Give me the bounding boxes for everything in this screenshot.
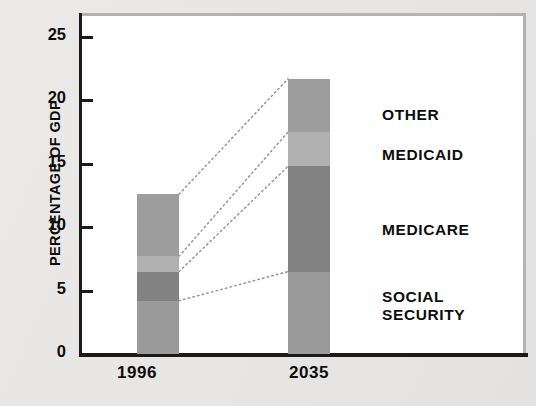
- y-tick-mark: [82, 353, 93, 356]
- bar-segment-other-2035: [288, 79, 330, 132]
- y-tick-mark: [82, 36, 93, 39]
- bar-segment-other-1996: [137, 194, 179, 256]
- bar-segment-social-security-1996: [137, 301, 179, 354]
- y-tick-mark: [82, 226, 93, 229]
- x-label-1996: 1996: [77, 363, 197, 383]
- series-label-medicaid: MEDICAID: [382, 146, 463, 164]
- bar-segment-medicare-2035: [288, 166, 330, 271]
- bar-2035: [288, 0, 330, 354]
- chart-page: PERCENTAGE OF GDP 2520151050 1996 2035 O…: [0, 0, 536, 406]
- bar-segment-social-security-2035: [288, 272, 330, 354]
- bar-segment-medicaid-1996: [137, 256, 179, 271]
- y-tick-mark: [82, 99, 93, 102]
- y-tick-label: 15: [48, 153, 66, 170]
- y-tick-label: 0: [57, 343, 66, 360]
- bar-segment-medicaid-2035: [288, 132, 330, 166]
- y-tick-mark: [82, 290, 93, 293]
- y-axis-line: [79, 13, 82, 356]
- y-tick-label: 25: [48, 26, 66, 43]
- bar-segment-medicare-1996: [137, 272, 179, 301]
- y-tick-label: 5: [57, 280, 66, 297]
- bar-1996: [137, 0, 179, 354]
- series-label-other: OTHER: [382, 106, 439, 124]
- series-label-social-security: SOCIAL SECURITY: [382, 288, 465, 325]
- y-tick-label: 20: [48, 89, 66, 106]
- x-label-2035: 2035: [249, 363, 369, 383]
- y-tick-label: 10: [48, 216, 66, 233]
- y-tick-mark: [82, 163, 93, 166]
- series-label-medicare: MEDICARE: [382, 221, 469, 239]
